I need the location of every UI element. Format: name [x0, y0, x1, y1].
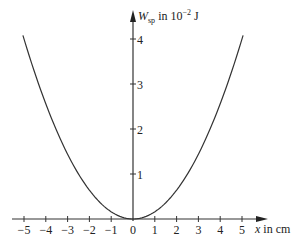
y-tick-label: 3	[137, 78, 143, 92]
x-tick-label: 4	[217, 223, 223, 237]
x-tick-label: 0	[130, 223, 136, 237]
x-tick-label: −3	[61, 223, 74, 237]
y-axis: 1234	[130, 10, 143, 221]
x-tick-label: 5	[239, 223, 245, 237]
x-tick-label: 1	[152, 223, 158, 237]
x-axis-label: x in cm	[254, 222, 291, 236]
x-tick-label: −5	[18, 223, 31, 237]
y-axis-label: Wsp in 10−2 J	[138, 8, 199, 25]
x-tick-label: 3	[195, 223, 201, 237]
x-tick-label: −1	[105, 223, 118, 237]
y-tick-label: 1	[137, 168, 143, 182]
x-axis: −5−4−3−2−1012345	[12, 216, 268, 237]
y-tick-label: 4	[137, 33, 143, 47]
y-tick-label: 2	[137, 123, 143, 137]
chart: −5−4−3−2−1012345 1234 x in cm Wsp in 10−…	[0, 0, 301, 248]
x-tick-label: −2	[83, 223, 96, 237]
y-axis-arrow-icon	[130, 10, 136, 22]
x-tick-label: 2	[174, 223, 180, 237]
x-tick-label: −4	[39, 223, 52, 237]
